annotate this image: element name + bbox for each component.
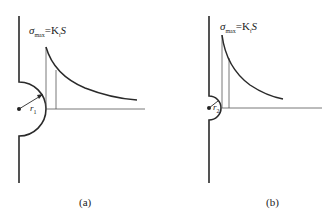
stress-curve-a xyxy=(46,47,137,100)
equation-label-b: σmax=KtS xyxy=(220,20,257,34)
caption-b: (b) xyxy=(266,196,279,208)
equation-label-a: σmax=KtS xyxy=(29,24,66,38)
equals-k: =K xyxy=(45,24,59,36)
subscript-max: max xyxy=(34,32,44,38)
radius-label-b: r2 xyxy=(213,102,220,114)
stress-s: S xyxy=(61,24,67,36)
plate-edge-b xyxy=(209,16,221,183)
radius-subscript: 2 xyxy=(217,108,220,114)
radius-label-a: r1 xyxy=(30,103,37,115)
figure-b xyxy=(207,16,322,183)
figure-a xyxy=(17,16,145,183)
caption-a: (a) xyxy=(79,196,91,208)
stress-curve-b xyxy=(222,35,283,99)
equals-k: =K xyxy=(236,20,250,32)
radius-subscript: 1 xyxy=(34,109,37,115)
stress-s: S xyxy=(252,20,258,32)
plate-edge-a xyxy=(19,16,46,183)
subscript-max: max xyxy=(225,28,235,34)
